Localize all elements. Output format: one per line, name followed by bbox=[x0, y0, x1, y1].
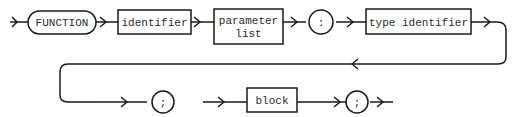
semicolon-label-2: ; bbox=[354, 97, 361, 109]
syntax-diagram: FUNCTION identifier parameter list : typ… bbox=[0, 0, 520, 117]
colon-label: : bbox=[318, 17, 325, 29]
block-label: block bbox=[255, 95, 288, 107]
type-identifier-label: type identifier bbox=[369, 17, 468, 29]
keyword-function-label: FUNCTION bbox=[36, 17, 89, 29]
identifier-label: identifier bbox=[121, 17, 187, 29]
semicolon-label-1: ; bbox=[160, 97, 167, 109]
parameter-list-label-line1: parameter bbox=[219, 15, 278, 27]
parameter-list-label-line2: list bbox=[235, 28, 261, 40]
